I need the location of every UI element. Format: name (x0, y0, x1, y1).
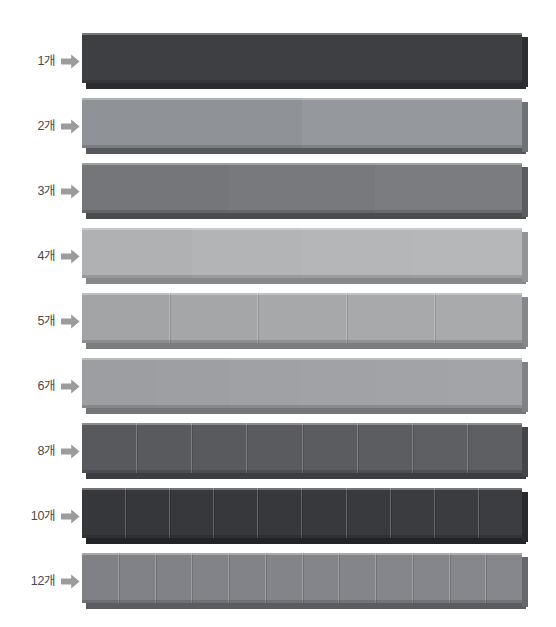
rod-segment[interactable] (82, 358, 155, 408)
rod-label-cell: 12개 (0, 553, 82, 609)
rod-segment[interactable] (434, 488, 478, 538)
rod-bottom-face (86, 213, 526, 219)
rod-bottom-face (86, 343, 526, 349)
arrow-right-icon (61, 119, 80, 134)
rod-row: 1개 (0, 33, 556, 93)
rod-segment[interactable] (82, 163, 229, 213)
rod-front-face[interactable] (82, 163, 522, 213)
rod-segment[interactable] (229, 163, 376, 213)
rod-bottom-face (86, 148, 526, 154)
rod-segment[interactable] (246, 423, 301, 473)
rod-graphic (82, 33, 528, 89)
rod-segment[interactable] (169, 488, 213, 538)
arrow-right-icon (61, 54, 80, 69)
rod-segment[interactable] (467, 423, 522, 473)
rod-segment[interactable] (191, 423, 246, 473)
rod-side-face (522, 297, 528, 347)
rod-segment[interactable] (302, 553, 339, 603)
rod-label-cell: 1개 (0, 33, 82, 89)
rod-segment[interactable] (375, 553, 412, 603)
rod-segment[interactable] (82, 553, 118, 603)
rod-count-label: 8개 (37, 445, 56, 458)
rod-bottom-face (86, 278, 526, 284)
rod-count-label: 10개 (31, 510, 56, 523)
rod-graphic (82, 358, 528, 414)
rod-segment[interactable] (136, 423, 191, 473)
rod-label-cell: 2개 (0, 98, 82, 154)
rod-segment[interactable] (192, 228, 302, 278)
rod-segment[interactable] (478, 488, 522, 538)
rod-segment[interactable] (82, 228, 192, 278)
rod-front-face[interactable] (82, 423, 522, 473)
rod-segment[interactable] (169, 293, 257, 343)
rod-segment[interactable] (155, 358, 228, 408)
rod-graphic (82, 423, 528, 479)
rod-side-face (522, 232, 528, 282)
rod-segment[interactable] (125, 488, 169, 538)
rod-front-face[interactable] (82, 33, 522, 83)
rod-segment[interactable] (449, 358, 522, 408)
rod-segment[interactable] (357, 423, 412, 473)
rod-side-face (522, 102, 528, 152)
rod-segment[interactable] (449, 553, 486, 603)
rod-side-face (522, 167, 528, 217)
rod-segment[interactable] (302, 423, 357, 473)
rod-segment[interactable] (301, 488, 345, 538)
rod-count-label: 1개 (37, 55, 56, 68)
rod-segment[interactable] (390, 488, 434, 538)
rod-front-face[interactable] (82, 98, 522, 148)
rod-count-label: 12개 (31, 575, 56, 588)
rod-count-label: 5개 (37, 315, 56, 328)
rod-front-face[interactable] (82, 553, 522, 603)
rod-bottom-face (86, 83, 526, 89)
rod-segment[interactable] (338, 553, 375, 603)
rod-label-cell: 4개 (0, 228, 82, 284)
rod-segment[interactable] (82, 488, 125, 538)
rod-segment[interactable] (302, 358, 375, 408)
rod-side-face (522, 557, 528, 607)
arrow-right-icon (61, 184, 80, 199)
rod-side-face (522, 492, 528, 542)
rod-front-face[interactable] (82, 488, 522, 538)
rod-segment[interactable] (118, 553, 155, 603)
rod-segment[interactable] (257, 488, 301, 538)
rod-segment[interactable] (213, 488, 257, 538)
rod-front-face[interactable] (82, 228, 522, 278)
rod-segment[interactable] (412, 553, 449, 603)
arrow-right-icon (61, 574, 80, 589)
rod-segment[interactable] (375, 358, 448, 408)
rod-segment[interactable] (228, 553, 265, 603)
rod-segment[interactable] (485, 553, 522, 603)
rod-side-face (522, 37, 528, 87)
rod-graphic (82, 293, 528, 349)
rod-side-face (522, 362, 528, 412)
rod-segment[interactable] (302, 228, 412, 278)
rod-row: 5개 (0, 293, 556, 353)
rod-segment[interactable] (412, 228, 522, 278)
rod-segment[interactable] (82, 33, 522, 83)
rod-segment[interactable] (155, 553, 192, 603)
rod-segment[interactable] (229, 358, 302, 408)
rod-segment[interactable] (82, 293, 169, 343)
rod-segment[interactable] (191, 553, 228, 603)
rod-segment[interactable] (265, 553, 302, 603)
rod-front-face[interactable] (82, 293, 522, 343)
rod-segment[interactable] (434, 293, 522, 343)
rod-count-label: 2개 (37, 120, 56, 133)
rod-label-cell: 6개 (0, 358, 82, 414)
rod-segment[interactable] (257, 293, 345, 343)
rod-row: 10개 (0, 488, 556, 548)
rod-label-cell: 10개 (0, 488, 82, 544)
rod-segment[interactable] (346, 293, 434, 343)
rod-segment[interactable] (82, 423, 136, 473)
rod-segment[interactable] (375, 163, 522, 213)
rod-row: 2개 (0, 98, 556, 158)
rod-segment[interactable] (82, 98, 302, 148)
rod-front-face[interactable] (82, 358, 522, 408)
rod-segment[interactable] (412, 423, 467, 473)
rod-count-label: 6개 (37, 380, 56, 393)
rod-label-cell: 3개 (0, 163, 82, 219)
rod-segment[interactable] (346, 488, 390, 538)
rod-row: 6개 (0, 358, 556, 418)
rod-segment[interactable] (302, 98, 522, 148)
